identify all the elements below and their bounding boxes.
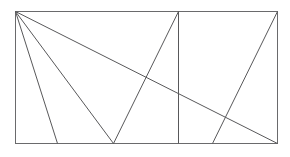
geometry-svg bbox=[0, 0, 290, 157]
geometry-figure-canvas bbox=[0, 0, 290, 157]
